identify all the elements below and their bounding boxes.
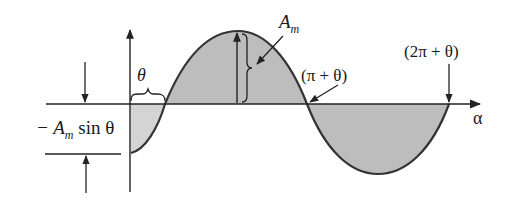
neg-amplitude-label: − Am sin θ [36,118,114,137]
theta-brace [131,89,165,101]
pi-plus-theta-label: (π + θ) [301,67,347,84]
amplitude-label-main: A [279,11,291,32]
x-axis-label: α [473,109,482,127]
shaded-area-negative-half [307,104,449,174]
two-pi-plus-theta-label: (2π + θ) [404,43,459,60]
neg-amplitude-suffix: sin θ [74,117,115,138]
amplitude-label: Am [279,12,299,31]
shaded-area-positive-half [165,31,307,104]
sine-waveform-diagram: θ Am − Am sin θ (π + θ) (2π + θ) α [0,0,519,203]
waveform-graphic [0,0,519,203]
neg-amplitude-sub: m [65,128,74,142]
theta-label: θ [137,66,146,84]
shaded-area-negative-start [131,104,165,153]
neg-amplitude-prefix: − A [36,117,65,138]
amplitude-label-sub: m [291,22,300,36]
pi-plus-theta-pointer [310,85,338,102]
